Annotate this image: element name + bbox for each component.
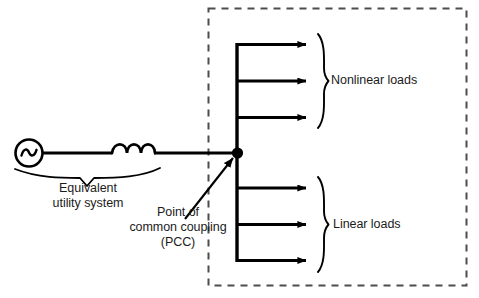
pcc-node-dot: [232, 147, 243, 158]
linear-load-feeders: [237, 188, 306, 261]
diagram-canvas: [0, 0, 479, 298]
label-equivalent-utility-system: Equivalent utility system: [53, 181, 124, 211]
label-nonlinear-loads: Nonlinear loads: [331, 73, 417, 88]
label-point-of-common-coupling: Point of common coupling (PCC): [129, 205, 226, 250]
nonlinear-loads-brace: [318, 34, 329, 128]
figure-pcc-diagram: Equivalent utility system Point of commo…: [0, 0, 479, 298]
nonlinear-load-feeders: [237, 45, 306, 118]
customer-facility-boundary: [209, 9, 467, 286]
linear-loads-brace: [318, 177, 329, 272]
label-linear-loads: Linear loads: [333, 217, 401, 232]
ac-source-icon: [16, 140, 43, 167]
inductor-icon: [112, 144, 155, 153]
